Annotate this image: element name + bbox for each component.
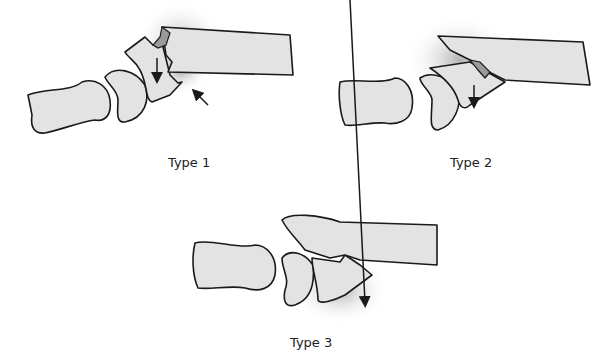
label-type-3: Type 3 [290,335,332,350]
panel-type-2 [339,15,590,130]
fracture-types-diagram [0,0,605,358]
panel-type-1 [28,0,293,133]
label-type-1: Type 1 [168,155,210,170]
label-type-2: Type 2 [450,155,492,170]
